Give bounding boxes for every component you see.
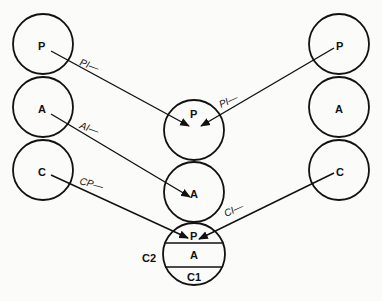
composite-adult-label: A: [190, 249, 198, 261]
right-parent-label: P: [336, 40, 343, 52]
left-parent-label: P: [38, 40, 45, 52]
left-adult-label: A: [38, 103, 46, 115]
edges: PI— AI— CP— PI— CI—: [51, 48, 334, 239]
edge-label-right-c: CI—: [222, 200, 246, 219]
center-parent-label: P: [190, 108, 197, 120]
right-column: P A C: [309, 14, 369, 200]
right-child-label: C: [336, 166, 344, 178]
edge-right-c-to-composite-p: [199, 173, 334, 239]
right-adult-label: A: [335, 103, 343, 115]
left-column: P A C: [13, 14, 73, 200]
edge-right-p-to-center-p: [201, 48, 334, 126]
edge-label-left-p: PI—: [78, 57, 101, 74]
composite-parent-label: P: [190, 230, 197, 242]
edge-label-left-a: AI—: [77, 119, 101, 137]
composite-side-label: C2: [142, 252, 156, 264]
ego-state-diagram: P A C P A C P A P A C1 C2 PI— AI— CP—: [0, 0, 382, 301]
edge-label-right-p: PI—: [217, 91, 240, 110]
left-child-label: C: [38, 166, 46, 178]
composite-child-label: C1: [187, 271, 201, 283]
center-adult-label: A: [190, 188, 198, 200]
